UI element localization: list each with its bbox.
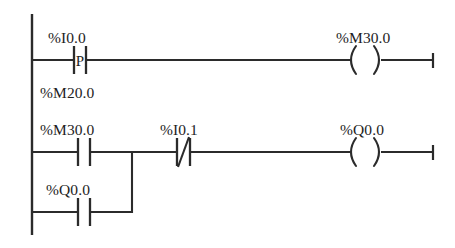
contact-slash (178, 137, 189, 167)
label-i0-1: %I0.1 (160, 121, 198, 138)
contact-normally-open-m30-0[interactable] (78, 138, 90, 166)
label-m30-0-coil: %M30.0 (336, 29, 391, 46)
label-m30-0-contact: %M30.0 (40, 121, 95, 138)
rung-2: %M30.0 %I0.1 %Q0.0 (32, 121, 433, 167)
coil-m30-0[interactable] (351, 46, 379, 74)
ladder-diagram-canvas: P %I0.0 %M30.0 %M20.0 (0, 0, 455, 248)
rung-3-seal-in-branch: %Q0.0 (32, 152, 132, 226)
coil-arc-right (374, 46, 379, 74)
label-i0-0: %I0.0 (48, 29, 86, 46)
label-m20-0: %M20.0 (40, 84, 95, 101)
label-q0-0-contact: %Q0.0 (46, 181, 90, 198)
contact-normally-open-q0-0[interactable] (78, 198, 90, 226)
rung-1: P %I0.0 %M30.0 (32, 29, 433, 74)
coil-arc-left (351, 138, 356, 166)
contact-normally-closed-i0-1[interactable] (177, 137, 190, 167)
coil-arc-left (351, 46, 356, 74)
label-q0-0-coil: %Q0.0 (340, 121, 384, 138)
ladder-logic-diagram: P %I0.0 %M30.0 %M20.0 (0, 0, 455, 248)
coil-q0-0[interactable] (351, 138, 379, 166)
coil-arc-right (374, 138, 379, 166)
contact-positive-edge-i0-0[interactable]: P (74, 46, 86, 74)
edge-detect-letter: P (76, 53, 84, 69)
